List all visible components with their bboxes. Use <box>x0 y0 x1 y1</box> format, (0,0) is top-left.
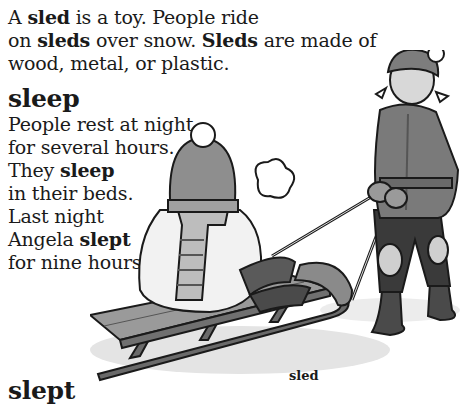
text-run: A <box>8 6 27 28</box>
bold-term: Sleds <box>202 29 258 51</box>
sled-illustration <box>90 50 472 410</box>
headword-slept: slept <box>8 376 75 405</box>
text-run: over snow. <box>90 29 202 51</box>
illustration-caption: sled <box>289 368 319 383</box>
headword-sleep: sleep <box>8 84 79 113</box>
text-run: Angela <box>8 228 79 250</box>
definition-line: A sled is a toy. People ride <box>8 6 472 29</box>
bold-term: sleds <box>37 29 90 51</box>
text-run: on <box>8 29 37 51</box>
definition-line: on sleds over snow. Sleds are made of <box>8 29 472 52</box>
standing-girl-icon <box>368 50 458 335</box>
text-run: are made of <box>258 29 377 51</box>
text-run: is a toy. People ride <box>70 6 259 28</box>
text-run: They <box>8 159 60 181</box>
bold-term: sled <box>27 6 70 28</box>
